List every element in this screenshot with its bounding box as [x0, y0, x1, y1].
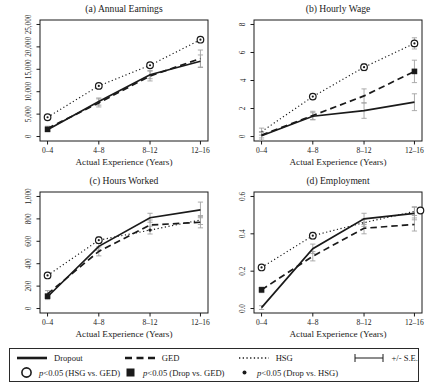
x-tick-label: 12–16	[405, 146, 424, 155]
y-tick-label: 5,000	[26, 106, 34, 123]
sig-filled-dot	[148, 228, 151, 231]
y-tick-label: 0	[26, 134, 34, 138]
x-tick-label: 4–8	[93, 146, 105, 155]
x-axis-label: Actual Experience (Years)	[75, 329, 172, 339]
y-tick-label: 0	[26, 306, 34, 310]
y-tick-label: 600	[26, 235, 34, 246]
chart-b: (b) Hourly Wage024680–44–88–1212–16Actua…	[214, 0, 428, 172]
hsg-line-swatch	[238, 355, 270, 361]
sig-inner-dot	[149, 64, 151, 66]
legend-item-dropout: Dropout	[10, 353, 124, 363]
panel-employment: (d) Employment0.00.20.40.60–44–88–1212–1…	[214, 172, 428, 344]
sig-filled-square	[45, 293, 51, 299]
panel-annual-earnings: (a) Annual Earnings05,00010,00015,00020,…	[0, 0, 214, 172]
sig-inner-dot	[46, 274, 48, 276]
y-tick-label: 0	[240, 134, 248, 138]
chart-a: (a) Annual Earnings05,00010,00015,00020,…	[0, 0, 214, 172]
y-tick-label: 0.0	[240, 304, 248, 313]
legend-row-series: Dropout GED HSG +/- S.E.	[10, 350, 418, 365]
plot-frame	[40, 20, 208, 141]
x-axis-label: Actual Experience (Years)	[289, 329, 386, 339]
y-tick-label: 2	[240, 106, 248, 110]
filled-square-icon	[124, 366, 137, 379]
legend-item-drop-vs-hsg: p<0.05 (Drop vs. HSG)	[238, 366, 418, 379]
y-tick-label: 200	[26, 280, 34, 291]
sig-inner-dot	[363, 66, 365, 68]
sig-inner-dot	[98, 85, 100, 87]
figure-legend: Dropout GED HSG +/- S.E.	[9, 348, 419, 382]
x-tick-label: 4–8	[307, 146, 319, 155]
x-tick-label: 12–16	[405, 318, 424, 327]
legend-label-hsg: HSG	[276, 353, 293, 363]
x-tick-label: 8–12	[143, 318, 158, 327]
sig-inner-dot	[98, 239, 100, 241]
series-line-hsg	[48, 40, 201, 118]
x-tick-label: 12–16	[191, 318, 210, 327]
y-tick-label: 0.4	[240, 229, 248, 238]
sig-label-drop-vs-ged: p<0.05 (Drop vs. GED)	[143, 368, 224, 378]
sig-inner-dot	[260, 266, 262, 268]
sig-open-circle	[417, 207, 424, 214]
series-line-ged	[262, 71, 415, 135]
ged-line-swatch	[124, 355, 156, 361]
legend-row-significance: p<0.05 (HSG vs. GED) p<0.05 (Drop vs. GE…	[10, 365, 418, 380]
y-tick-label: 15,000	[26, 59, 34, 79]
sig-filled-square	[412, 69, 418, 75]
legend-label-ged: GED	[162, 353, 180, 363]
chart-title: (a) Annual Earnings	[85, 3, 163, 15]
y-tick-label: 0.6	[240, 192, 248, 201]
series-line-hsg	[262, 43, 415, 131]
x-tick-label: 8–12	[357, 318, 372, 327]
legend-item-se: +/- S.E.	[353, 353, 418, 363]
sig-label-hsg-vs-ged: p<0.05 (HSG vs. GED)	[39, 368, 120, 378]
legend-item-ged: GED	[124, 353, 238, 363]
chart-title: (d) Employment	[306, 175, 369, 187]
sig-label-drop-vs-hsg: p<0.05 (Drop vs. HSG)	[257, 368, 338, 378]
y-tick-label: 8	[240, 22, 248, 26]
chart-title: (c) Hours Worked	[90, 175, 159, 187]
y-tick-label: 800	[26, 213, 34, 224]
error-bar-icon	[353, 353, 385, 363]
sig-inner-dot	[413, 42, 415, 44]
series-line-dropout	[48, 61, 201, 130]
y-tick-label: 25,000	[26, 14, 34, 34]
legend-item-hsg-vs-ged: p<0.05 (HSG vs. GED)	[10, 366, 124, 379]
y-tick-label: 6	[240, 50, 248, 54]
x-tick-label: 0–4	[256, 318, 268, 327]
open-circle-icon	[20, 366, 33, 379]
legend-label-dropout: Dropout	[54, 353, 83, 363]
x-tick-label: 0–4	[42, 146, 54, 155]
panel-hourly-wage: (b) Hourly Wage024680–44–88–1212–16Actua…	[214, 0, 428, 172]
series-line-hsg	[48, 220, 201, 275]
legend-item-drop-vs-ged: p<0.05 (Drop vs. GED)	[124, 366, 238, 379]
series-line-hsg	[262, 211, 415, 267]
y-tick-label: 4	[240, 78, 248, 82]
y-tick-label: 20,000	[26, 37, 34, 57]
x-tick-label: 8–12	[357, 146, 372, 155]
filled-dot-icon	[238, 366, 251, 379]
x-tick-label: 8–12	[143, 146, 158, 155]
series-line-dropout	[262, 102, 415, 136]
x-tick-label: 0–4	[42, 318, 54, 327]
sig-filled-square	[45, 127, 51, 133]
sig-inner-dot	[199, 39, 201, 41]
x-tick-label: 4–8	[307, 318, 319, 327]
four-panel-figure: (a) Annual Earnings05,00010,00015,00020,…	[0, 0, 428, 388]
plot-frame	[40, 192, 208, 313]
x-tick-label: 12–16	[191, 146, 210, 155]
chart-d: (d) Employment0.00.20.40.60–44–88–1212–1…	[214, 172, 428, 344]
x-axis-label: Actual Experience (Years)	[289, 157, 386, 167]
dropout-line-swatch	[16, 355, 48, 361]
legend-label-se: +/- S.E.	[391, 353, 418, 363]
series-line-dropout	[262, 213, 415, 307]
chart-c: (c) Hours Worked02004006008001,0000–44–8…	[0, 172, 214, 344]
y-tick-label: 10,000	[26, 81, 34, 101]
x-axis-label: Actual Experience (Years)	[75, 157, 172, 167]
x-tick-label: 4–8	[93, 318, 105, 327]
sig-inner-dot	[312, 96, 314, 98]
sig-filled-square	[259, 287, 265, 293]
plot-frame	[254, 192, 422, 313]
sig-inner-dot	[312, 235, 314, 237]
panel-hours-worked: (c) Hours Worked02004006008001,0000–44–8…	[0, 172, 214, 344]
plot-frame	[254, 20, 422, 141]
